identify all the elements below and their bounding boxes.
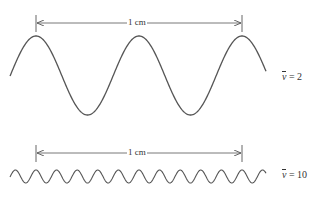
nu-bar-symbol: ν	[282, 71, 286, 82]
scale-label-top: 1 cm	[127, 17, 147, 27]
wavenumber-label-low: ν = 2	[282, 71, 302, 82]
sine-wave-low	[10, 36, 266, 115]
scale-label-bottom: 1 cm	[127, 147, 147, 157]
wavenumber-value: = 10	[289, 169, 307, 180]
low-wavenumber-panel	[10, 15, 266, 115]
wave-diagram	[0, 0, 324, 200]
sine-wave-high	[10, 170, 266, 183]
nu-bar-symbol: ν	[282, 169, 286, 180]
wavenumber-value: = 2	[289, 71, 302, 82]
wavenumber-label-high: ν = 10	[282, 169, 307, 180]
